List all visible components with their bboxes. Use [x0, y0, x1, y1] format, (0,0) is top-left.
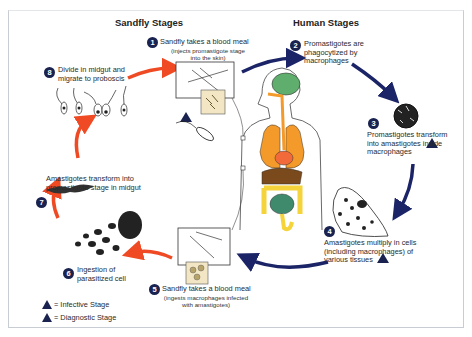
stage3-macrophage [394, 104, 418, 128]
stage6-number: 6 [63, 268, 74, 279]
stage8-title: Divide in midgut and migrate to probosci… [58, 66, 130, 83]
stage3-number: 3 [368, 118, 379, 129]
stage6-parasitized-cell [75, 211, 142, 255]
stage1-title: Sandfly takes a blood meal [160, 38, 249, 47]
stage5-sandfly-panel [178, 228, 230, 284]
stage4-title: Amastigotes multiply in cells (including… [324, 239, 420, 265]
infective-stage-icon [42, 300, 52, 309]
stage8-number: 8 [44, 67, 55, 78]
stage7-number: 7 [36, 197, 47, 208]
stage2-number: 2 [290, 40, 301, 51]
stage8-promastigotes [57, 86, 127, 116]
stage4-number: 4 [324, 226, 335, 237]
stage1-sandfly-panel [176, 62, 234, 143]
legend-diagnostic-label: = Diagnostic Stage [54, 313, 116, 322]
legend-diagnostic: = Diagnostic Stage [42, 313, 116, 322]
sandfly-stages-heading: Sandfly Stages [115, 17, 183, 28]
stage5-title: Sandfly takes a blood meal [162, 285, 251, 294]
stage4-tissue-cell [333, 188, 388, 237]
stage6-title: Ingestion of parasitized cell [77, 266, 127, 283]
diagnostic-stage-icon [42, 313, 52, 322]
stage7-title: Amastigotes transform into promastigote … [46, 175, 146, 192]
stage1-number: 1 [147, 37, 158, 48]
stage5-detail: (ingests macrophages infected with amast… [158, 294, 254, 308]
human-stages-heading: Human Stages [293, 17, 359, 28]
stage2-title: Promastigotes are phagocytized by macrop… [304, 40, 368, 66]
legend-infective: = Infective Stage [42, 300, 109, 309]
stage3-title: Promastigotes transform into amastigotes… [367, 131, 459, 157]
legend-infective-label: = Infective Stage [54, 300, 109, 309]
human-body-figure [232, 68, 322, 230]
stage1-detail: (injects promastigote stage into the ski… [168, 47, 248, 61]
